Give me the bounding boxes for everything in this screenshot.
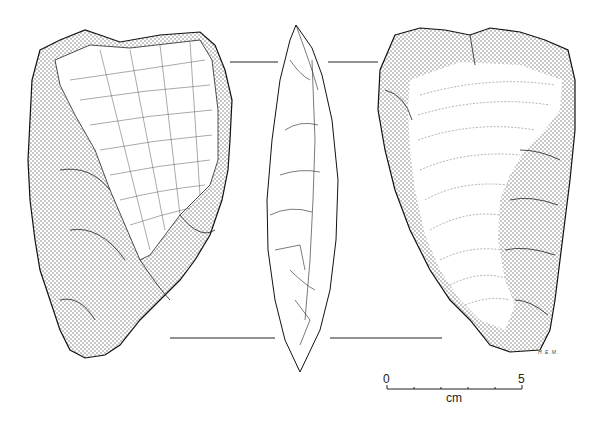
ventral-view [378,28,575,352]
dorsal-view [28,30,232,358]
illustrator-signature: H.E.M. [538,349,559,355]
profile-view [267,25,338,372]
scale-start-label: 0 [383,372,390,386]
scale-bar [387,385,522,389]
illustration-plate: 0 5 cm H.E.M. [0,0,604,427]
scale-end-label: 5 [518,372,525,386]
artifact-drawing [0,0,604,427]
scale-unit-label: cm [446,391,462,405]
